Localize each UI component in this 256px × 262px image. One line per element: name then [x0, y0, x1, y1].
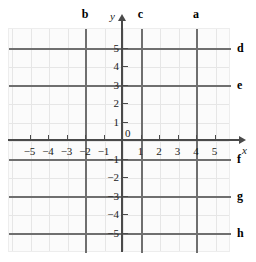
y-tick-label: 2 [100, 98, 119, 109]
y-axis-arrow-icon [118, 14, 126, 21]
x-axis [8, 139, 240, 141]
x-tick-label: −4 [42, 146, 54, 157]
y-tick [123, 214, 128, 215]
x-axis-label: x [242, 145, 247, 156]
y-tick-label: −4 [100, 209, 119, 220]
y-axis [121, 20, 123, 252]
line-b [85, 29, 87, 253]
y-tick [123, 66, 128, 67]
x-tick-label: −3 [61, 146, 73, 157]
line-f [9, 159, 231, 161]
line-a [196, 29, 198, 253]
x-tick-label: 3 [175, 146, 181, 157]
x-tick [67, 135, 68, 140]
x-tick-label: −5 [24, 146, 36, 157]
x-axis-arrow-icon [239, 136, 246, 144]
y-tick-label: 5 [100, 42, 119, 53]
line-h [9, 233, 231, 235]
y-tick [123, 85, 128, 86]
x-tick-label: 1 [138, 146, 144, 157]
y-tick [123, 177, 128, 178]
x-tick [178, 135, 179, 140]
origin-label: 0 [125, 128, 131, 139]
y-tick-label: −2 [100, 172, 119, 183]
line-c [141, 29, 143, 253]
y-tick-label: 4 [100, 61, 119, 72]
x-tick-label: 2 [156, 146, 162, 157]
y-tick [123, 159, 128, 160]
y-tick-label: −1 [100, 153, 119, 164]
line-label-h: h [237, 227, 244, 239]
x-tick [196, 135, 197, 140]
line-label-b: b [82, 8, 89, 20]
x-tick [159, 135, 160, 140]
y-tick-label: −5 [100, 227, 119, 238]
coordinate-grid-figure: −5−4−3−2−112345 54321−1−2−3−4−5 0 x y b … [0, 0, 256, 262]
line-g [9, 196, 231, 198]
y-tick [123, 233, 128, 234]
x-tick-label: −2 [79, 146, 91, 157]
x-tick [104, 135, 105, 140]
x-tick [48, 135, 49, 140]
line-label-e: e [237, 79, 242, 91]
line-label-d: d [237, 42, 244, 54]
line-label-a: a [193, 8, 199, 20]
y-tick-label: 3 [100, 79, 119, 90]
y-tick-label: −3 [100, 190, 119, 201]
y-tick [123, 103, 128, 104]
y-tick-label: 1 [100, 116, 119, 127]
line-label-c: c [138, 8, 143, 20]
y-tick [123, 196, 128, 197]
line-e [9, 85, 231, 87]
x-tick [215, 135, 216, 140]
x-tick [30, 135, 31, 140]
y-tick [123, 122, 128, 123]
y-axis-label: y [110, 11, 115, 22]
x-tick-label: 4 [193, 146, 199, 157]
x-tick-label: 5 [212, 146, 218, 157]
y-tick [123, 48, 128, 49]
x-tick [85, 135, 86, 140]
x-tick [141, 135, 142, 140]
line-d [9, 48, 231, 50]
line-label-f: f [237, 153, 241, 165]
line-label-g: g [237, 190, 243, 202]
